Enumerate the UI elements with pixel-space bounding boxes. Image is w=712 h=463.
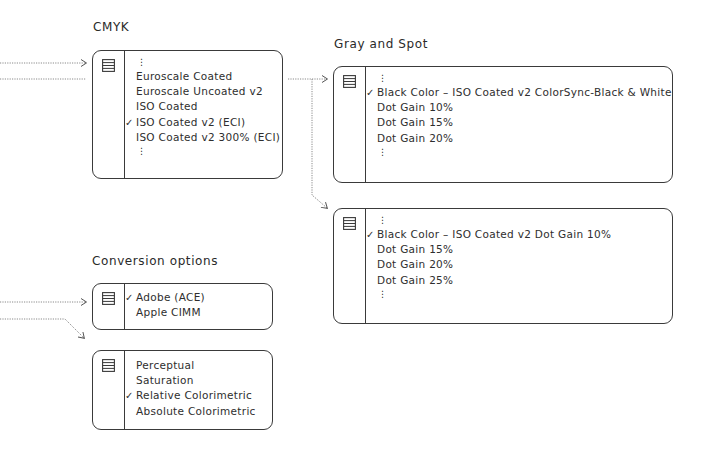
rendering-intent-list: Perceptual Saturation ✓Relative Colorime…	[124, 351, 272, 419]
conversion-engine-list: ✓Adobe (ACE) Apple CIMM	[124, 284, 272, 320]
menu-icon-column	[334, 209, 366, 323]
menu-icon-column	[93, 284, 125, 329]
menu-item[interactable]: Apple CIMM	[124, 305, 272, 320]
menu-item[interactable]: Dot Gain 20%	[365, 131, 672, 146]
menu-item-selected[interactable]: ✓Relative Colorimetric	[124, 388, 272, 403]
menu-item[interactable]: Euroscale Coated	[124, 69, 282, 84]
more-items-indicator[interactable]: ⋮	[365, 214, 672, 227]
menu-item-selected[interactable]: ✓Adobe (ACE)	[124, 290, 272, 305]
menu-item[interactable]: Dot Gain 25%	[365, 273, 672, 288]
more-items-indicator[interactable]: ⋮	[365, 288, 672, 301]
list-menu-icon[interactable]	[102, 359, 115, 372]
section-title-cmyk: CMYK	[93, 20, 129, 34]
menu-item[interactable]: Dot Gain 15%	[365, 115, 672, 130]
gray-spot-options-list: ⋮ ✓Black Color – ISO Coated v2 Dot Gain …	[365, 209, 672, 301]
checkmark-icon: ✓	[366, 227, 375, 242]
menu-item[interactable]: Absolute Colorimetric	[124, 404, 272, 419]
conversion-engine-menu[interactable]: ✓Adobe (ACE) Apple CIMM	[92, 283, 273, 330]
menu-item[interactable]: Dot Gain 20%	[365, 257, 672, 272]
more-items-indicator[interactable]: ⋮	[124, 56, 282, 69]
menu-item[interactable]: Dot Gain 10%	[365, 100, 672, 115]
menu-icon-column	[93, 351, 125, 429]
more-items-indicator[interactable]: ⋮	[365, 146, 672, 159]
more-items-indicator[interactable]: ⋮	[365, 72, 672, 85]
menu-item[interactable]: ISO Coated v2 300% (ECI)	[124, 130, 282, 145]
menu-item-selected[interactable]: ✓Black Color – ISO Coated v2 ColorSync-B…	[365, 85, 672, 100]
cmyk-profile-menu[interactable]: ⋮ Euroscale Coated Euroscale Uncoated v2…	[92, 50, 283, 179]
checkmark-icon: ✓	[125, 388, 134, 403]
checkmark-icon: ✓	[125, 290, 134, 305]
section-title-gray-and-spot: Gray and Spot	[334, 37, 428, 51]
cmyk-options-list: ⋮ Euroscale Coated Euroscale Uncoated v2…	[124, 51, 282, 158]
menu-item-selected[interactable]: ✓ISO Coated v2 (ECI)	[124, 115, 282, 130]
list-menu-icon[interactable]	[102, 292, 115, 305]
section-title-conversion-options: Conversion options	[92, 254, 218, 268]
menu-icon-column	[93, 51, 125, 178]
menu-item[interactable]: Saturation	[124, 373, 272, 388]
rendering-intent-menu[interactable]: Perceptual Saturation ✓Relative Colorime…	[92, 350, 273, 430]
menu-item-selected[interactable]: ✓Black Color – ISO Coated v2 Dot Gain 10…	[365, 227, 672, 242]
more-items-indicator[interactable]: ⋮	[124, 145, 282, 158]
menu-item[interactable]: Dot Gain 15%	[365, 242, 672, 257]
gray-spot-options-list: ⋮ ✓Black Color – ISO Coated v2 ColorSync…	[365, 67, 672, 159]
menu-item[interactable]: ISO Coated	[124, 99, 282, 114]
checkmark-icon: ✓	[125, 115, 134, 130]
menu-item[interactable]: Perceptual	[124, 358, 272, 373]
list-menu-icon[interactable]	[102, 59, 115, 72]
menu-item[interactable]: Euroscale Uncoated v2	[124, 84, 282, 99]
list-menu-icon[interactable]	[343, 75, 356, 88]
gray-spot-profile-menu-2[interactable]: ⋮ ✓Black Color – ISO Coated v2 Dot Gain …	[333, 208, 673, 324]
menu-icon-column	[334, 67, 366, 182]
checkmark-icon: ✓	[366, 85, 375, 100]
gray-spot-profile-menu-1[interactable]: ⋮ ✓Black Color – ISO Coated v2 ColorSync…	[333, 66, 673, 183]
list-menu-icon[interactable]	[343, 217, 356, 230]
